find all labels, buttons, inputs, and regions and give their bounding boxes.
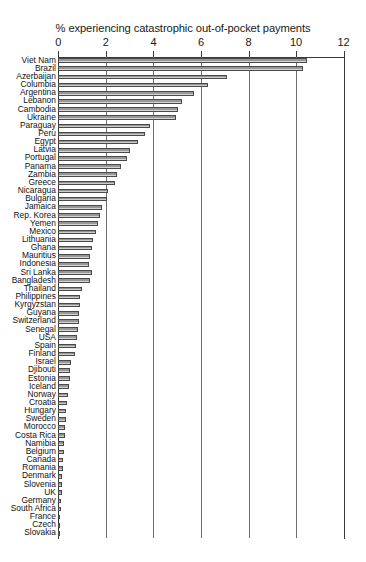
bar [58,352,75,357]
bar-row: Rep. Korea [58,212,344,219]
bar [58,181,115,186]
chart-title: % experiencing catastrophic out-of-pocke… [0,22,366,34]
bar-row: Egypt [58,139,344,146]
bar-row: Germany [58,497,344,504]
bar [58,278,90,283]
bar [58,327,78,332]
bar [58,409,66,414]
bar [58,189,108,194]
bar [58,115,176,120]
bar [58,441,64,446]
bar-row: Nicaragua [58,187,344,194]
bar-row: Bulgaria [58,196,344,203]
bar-row: Romania [58,465,344,472]
x-tick-label: 6 [198,36,204,48]
bar [58,401,66,406]
bar-row: Greece [58,179,344,186]
bar [58,164,121,169]
bar-row: Slovenia [58,481,344,488]
bar-row: Costa Rica [58,432,344,439]
bar-row: Thailand [58,285,344,292]
bar [58,254,90,259]
bar [58,384,68,389]
bar [58,66,303,71]
bar [58,450,63,455]
bar-row: France [58,514,344,521]
bar [58,91,193,96]
bar-row: Sri Lanka [58,269,344,276]
bar [58,393,68,398]
bar [58,531,60,536]
bar-row: Estonia [58,375,344,382]
bar-row: Zambia [58,171,344,178]
bar [58,466,62,471]
bar-row: Norway [58,391,344,398]
bar [58,515,60,520]
bar [58,433,64,438]
bar-row: Djibouti [58,367,344,374]
bar-row: Iceland [58,383,344,390]
bar-row: South Africa [58,505,344,512]
bar [58,507,60,512]
bar-row: Paraguay [58,122,344,129]
bar-row: Denmark [58,473,344,480]
bar-row: Argentina [58,90,344,97]
bar-row: Bangladesh [58,277,344,284]
bar-row: Switzerland [58,318,344,325]
bar [58,458,63,463]
bar [58,205,102,210]
bar-row: Namibia [58,440,344,447]
bar [58,140,138,145]
bar-row: Panama [58,163,344,170]
bar-row: Jamaica [58,204,344,211]
x-tick-label: 8 [245,36,251,48]
bar [58,425,65,430]
bar [58,230,96,235]
bar-row: Canada [58,456,344,463]
bar [58,344,75,349]
bar-row: Columbia [58,81,344,88]
bar-row: Senegal [58,326,344,333]
bar [58,311,79,316]
category-label: Slovakia [24,528,56,537]
bar-row: Peru [58,130,344,137]
bar [58,303,79,308]
bar-row: Lebanon [58,98,344,105]
bar-row: Belgium [58,448,344,455]
bar [58,490,62,495]
bar-row: Portugal [58,155,344,162]
bar [58,262,89,267]
bar-row: Slovakia [58,530,344,537]
bar-row: Czech [58,522,344,529]
bar [58,499,61,504]
bar-row: Latvia [58,147,344,154]
bar [58,335,77,340]
bar [58,197,107,202]
bar [58,124,150,129]
bar [58,99,182,104]
bar-row: Lithuania [58,236,344,243]
bar [58,295,80,300]
x-tick-label: 0 [55,36,61,48]
bar [58,368,70,373]
x-tick-label: 12 [337,36,349,48]
bar [58,417,65,422]
bar [58,270,91,275]
bar [58,213,100,218]
bar-row: Israel [58,359,344,366]
bar [58,58,306,63]
bar-row: Kyrgyzstan [58,302,344,309]
bar-row: Ghana [58,245,344,252]
bar [58,474,62,479]
bar-row: Croatia [58,399,344,406]
bar-row: Finland [58,350,344,357]
x-tick-label: 2 [103,36,109,48]
bar [58,83,208,88]
bar [58,107,178,112]
bar [58,319,78,324]
bar [58,287,82,292]
bar-row: Sweden [58,416,344,423]
bar [58,75,227,80]
bar-row: Mexico [58,228,344,235]
bar-row: Indonesia [58,261,344,268]
